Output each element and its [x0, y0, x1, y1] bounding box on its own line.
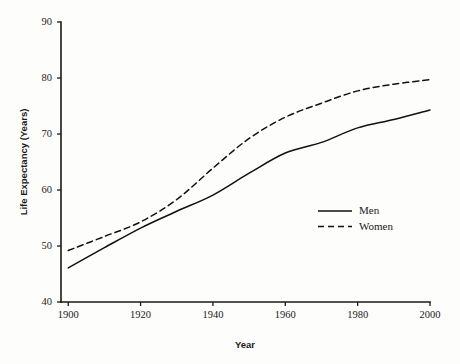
data-series-group	[68, 80, 430, 268]
x-axis-title: Year	[235, 339, 255, 350]
y-axis-title: Life Expectancy (Years)	[18, 109, 29, 216]
y-tick-label: 90	[42, 16, 53, 27]
y-tick-label: 80	[42, 72, 53, 83]
legend-label-women: Women	[359, 220, 393, 232]
y-tick-label: 40	[42, 296, 53, 307]
x-tick-label: 1940	[202, 309, 223, 320]
x-tick-label: 1920	[130, 309, 151, 320]
series-line-men	[68, 110, 430, 268]
chart-legend: MenWomen	[318, 204, 393, 232]
y-tick-label: 70	[42, 128, 53, 139]
x-tick-label: 2000	[420, 309, 441, 320]
x-tick-label: 1980	[347, 309, 368, 320]
line-chart-canvas: 405060708090 190019201940196019802000 Me…	[0, 0, 460, 364]
y-tick-label: 60	[42, 184, 53, 195]
y-tick-label: 50	[42, 240, 53, 251]
x-tick-label: 1900	[58, 309, 79, 320]
y-axis-ticks: 405060708090	[42, 16, 62, 307]
legend-label-men: Men	[359, 204, 380, 216]
chart-figure: 405060708090 190019201940196019802000 Me…	[0, 0, 460, 364]
x-tick-label: 1960	[275, 309, 296, 320]
plot-spines	[61, 22, 430, 302]
x-axis-ticks: 190019201940196019802000	[58, 302, 441, 320]
